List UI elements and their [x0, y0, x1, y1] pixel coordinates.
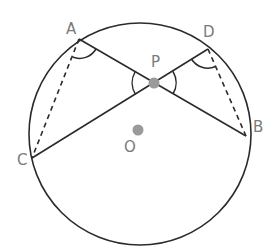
chord-ab [79, 39, 246, 136]
angle-mark-p-right [173, 72, 176, 95]
angle-mark-d [192, 59, 216, 68]
label-c: C [17, 153, 27, 168]
angle-mark-p-left [132, 72, 135, 95]
label-d: D [203, 25, 215, 40]
label-a: A [66, 22, 76, 37]
angle-mark-a [73, 49, 97, 58]
chord-cd [32, 49, 208, 158]
label-b: B [253, 120, 263, 135]
point-p-dot [149, 78, 160, 89]
circle-diagram [0, 0, 280, 251]
point-o-dot [133, 125, 144, 136]
label-p: P [151, 55, 160, 70]
dashed-segment-db [208, 49, 246, 136]
label-o: O [124, 140, 136, 155]
dashed-segment-ac [32, 39, 79, 158]
